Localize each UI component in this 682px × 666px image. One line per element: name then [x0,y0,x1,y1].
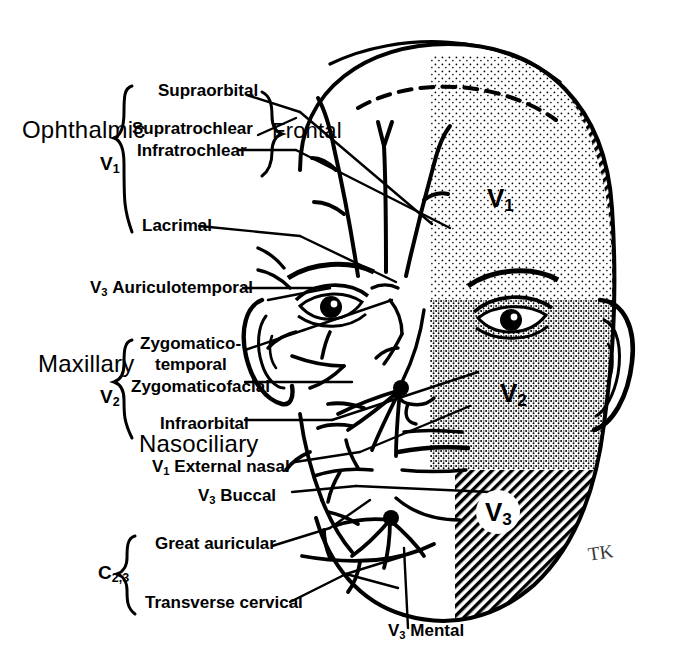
division-label-maxillary: Maxillary [38,352,134,376]
branch-label-frontal: Frontal [272,120,342,142]
branch-label-auriculotemporal: V3 Auriculotemporal [90,279,253,298]
branch-label-zygomatico: Zygomatico- [140,335,241,352]
division-label-ophthalmic: Ophthalmic [22,118,145,142]
branch-label-transverse-cervical: Transverse cervical [145,594,303,611]
face-region-symbol-v2: V2 [500,380,527,409]
branch-label-supratrochlear: Supratrochlear [132,120,253,137]
artist-signature: TK [587,540,615,565]
face-region-symbol-v3: V3 [485,499,512,528]
face-region-symbol-v1: V1 [487,185,514,214]
branch-label-zygomaticofacial: Zygomaticofacial [131,378,270,395]
branch-label-lacrimal: Lacrimal [142,217,212,234]
division-symbol-v1: V1 [100,154,120,176]
v1-territory-fill [430,55,612,300]
branch-label-external-nasal: V1 External nasal [152,458,290,477]
branch-label-buccal: V3 Buccal [198,487,276,506]
division-label-nasociliary: Nasociliary [139,432,259,456]
division-symbol-c23: C2,3 [98,563,129,585]
branch-label-zygomaticotemporal-cont: temporal [155,356,227,373]
branch-label-infratrochlear: Infratrochlear [137,142,247,159]
branch-label-mental: V3 Mental [388,622,464,641]
division-symbol-v2: V2 [100,387,120,409]
branch-label-great-auricular: Great auricular [155,535,276,552]
nerve-branches [258,98,450,592]
branch-label-supraorbital: Supraorbital [158,82,258,99]
